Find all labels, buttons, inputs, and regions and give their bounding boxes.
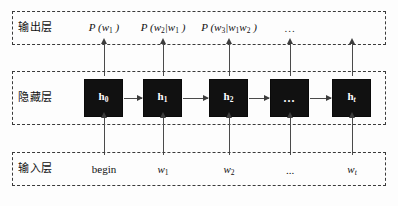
hidden-cell-h0-text: h0 — [99, 91, 109, 105]
hidden-layer-label: 隐藏层 — [18, 92, 53, 104]
input-layer-frame — [12, 152, 386, 186]
figure-canvas: 输出层 P (w1 ) P (w2|w1 ) P (w3|w1w2 ) ... … — [0, 0, 398, 206]
prob-condition: |w — [165, 21, 175, 33]
output-prob-w2-given-w1: P (w2|w1 ) — [141, 21, 186, 37]
input-token-w2: w2 — [223, 163, 234, 179]
output-layer-label: 输出层 — [18, 22, 53, 34]
token-sub: t — [355, 168, 357, 177]
input-token-w1: w1 — [157, 163, 168, 179]
prob-condition: |w — [225, 21, 235, 33]
arrow-h2-to-ellipsis — [249, 98, 269, 99]
cell-sub: 0 — [105, 95, 109, 104]
cell-sub: 1 — [164, 95, 168, 104]
hidden-cell-h2-text: h2 — [224, 91, 234, 105]
arrow-h1-to-h2 — [183, 98, 208, 99]
output-prob-w1: P (w1 ) — [89, 21, 119, 37]
hidden-cell-ht-text: ht — [347, 91, 355, 105]
cell-sub: t — [354, 95, 356, 104]
hidden-cell-ellipsis-text: ... — [284, 93, 296, 103]
token-sub: 2 — [231, 168, 235, 177]
token-sub: 1 — [165, 168, 169, 177]
arrow-input-to-hidden-3 — [229, 117, 230, 155]
output-layer-ellipsis: ... — [284, 22, 295, 34]
output-layer-frame — [12, 11, 386, 45]
arrow-input-to-hidden-1 — [104, 117, 105, 155]
arrow-input-to-hidden-2 — [163, 117, 164, 155]
hidden-cell-h1-text: h1 — [158, 91, 168, 105]
prob-condition-2: w — [239, 21, 246, 33]
input-token-wt: wt — [347, 163, 356, 179]
output-prob-w3-given-w1w2: P (w3|w1w2 ) — [201, 21, 257, 37]
arrow-input-to-hidden-5 — [352, 117, 353, 155]
input-layer-label: 输入层 — [18, 163, 53, 175]
input-token-ellipsis: ... — [286, 164, 294, 177]
cell-sub: 2 — [230, 95, 234, 104]
arrow-input-to-hidden-4 — [290, 117, 291, 155]
prob-close: ) — [250, 21, 256, 33]
prob-close: ) — [113, 21, 119, 33]
arrow-h0-to-h1 — [124, 98, 142, 99]
input-token-begin: begin — [92, 163, 116, 176]
arrow-ellipsis-to-ht — [310, 98, 331, 99]
prob-close: ) — [179, 21, 185, 33]
